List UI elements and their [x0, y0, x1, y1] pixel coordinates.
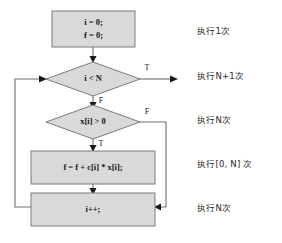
branch-label-loop-true: T [145, 63, 150, 72]
annotation-increment-count: 执行N次 [197, 201, 231, 213]
branch-label-loop-false: F [99, 96, 104, 105]
node-init-line2: f = 0; [84, 30, 103, 40]
branch-label-value-true: T [99, 139, 104, 148]
diagram-canvas: i = 0; f = 0; i < N T F x[i] > 0 F T f =… [0, 0, 282, 243]
node-accumulate-text: f = f + c[i] * x[i]; [63, 162, 122, 172]
annotation-accumulate-count: 执行[0, N] 次 [197, 157, 253, 169]
annotation-loop-condition-count: 执行N+1次 [197, 69, 244, 81]
annotation-value-condition-count: 执行N次 [197, 113, 231, 125]
branch-label-value-false: F [145, 107, 150, 116]
connector-increment-feedback-to-loop-condition [15, 79, 40, 207]
node-init-line1: i = 0; [84, 17, 103, 27]
flowchart-diagram: i = 0; f = 0; i < N T F x[i] > 0 F T f =… [0, 0, 282, 243]
arrowhead-loop-true-exit [170, 76, 178, 83]
annotation-init-count: 执行1次 [197, 24, 230, 36]
node-loop-condition-text: i < N [84, 73, 102, 83]
node-value-condition-text: x[i] > 0 [80, 116, 106, 126]
node-increment-text: i++; [86, 204, 101, 214]
